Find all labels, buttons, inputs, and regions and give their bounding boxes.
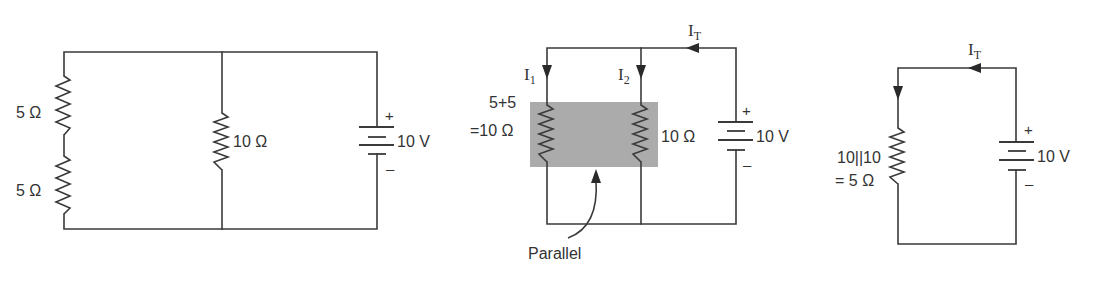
circuit-3-equivalent: IT 10||10 = 5 Ω + – 10 V	[835, 40, 1070, 244]
series-equivalent-label: =10 Ω	[470, 122, 514, 139]
circuit-diagram: 5 Ω 5 Ω 10 Ω + – 10 V I1	[0, 0, 1098, 284]
parallel-annotation-label: Parallel	[528, 245, 581, 262]
resistor-label-10-ohm: 10 Ω	[661, 128, 695, 145]
current-arrow-down-icon	[893, 86, 903, 100]
resistor-5-ohm-equivalent-icon	[890, 128, 904, 184]
parallel-pointer-arrowhead-icon	[591, 169, 601, 183]
current-arrow-i1-icon	[542, 65, 552, 79]
current-label-it: IT	[688, 21, 702, 43]
source-label-10v: 10 V	[756, 128, 789, 145]
equivalent-resistance-label: = 5 Ω	[835, 172, 874, 189]
circuit-1-original: 5 Ω 5 Ω 10 Ω + – 10 V	[16, 52, 430, 229]
source-label-10v: 10 V	[397, 133, 430, 150]
source-label-10v: 10 V	[1037, 148, 1070, 165]
battery-minus-sign: –	[1025, 175, 1034, 192]
resistor-label-5-ohm-bottom: 5 Ω	[16, 182, 41, 199]
battery-10v-icon	[999, 142, 1034, 170]
circuit-2-combined-series: I1 I2 IT 5+5 =10 Ω 10 Ω + – 10 V Paralle…	[470, 21, 789, 262]
battery-plus-sign: +	[1024, 121, 1033, 138]
battery-minus-sign: –	[386, 160, 395, 177]
battery-plus-sign: +	[742, 102, 751, 119]
battery-plus-sign: +	[385, 107, 394, 124]
resistor-label-5-ohm-top: 5 Ω	[16, 104, 41, 121]
circuit-3-wires	[898, 68, 1016, 244]
parallel-combination-label: 10||10	[837, 149, 881, 166]
battery-minus-sign: –	[743, 156, 752, 173]
series-sum-label: 5+5	[489, 94, 516, 111]
current-label-i1: I1	[524, 65, 536, 87]
resistor-label-10-ohm: 10 Ω	[233, 133, 267, 150]
battery-10v-icon	[359, 127, 394, 154]
current-arrow-it-icon	[686, 43, 699, 53]
current-label-it: IT	[968, 40, 982, 62]
resistor-5-ohm-top-icon	[56, 76, 70, 135]
current-arrow-i2-icon	[636, 65, 646, 79]
resistor-5-ohm-bottom-icon	[56, 156, 70, 214]
parallel-pointer-arrow-icon	[568, 180, 596, 238]
current-arrow-it-icon	[968, 63, 981, 73]
current-label-i2: I2	[618, 65, 630, 87]
resistor-10-ohm-icon	[214, 113, 228, 170]
battery-10v-icon	[718, 122, 753, 150]
